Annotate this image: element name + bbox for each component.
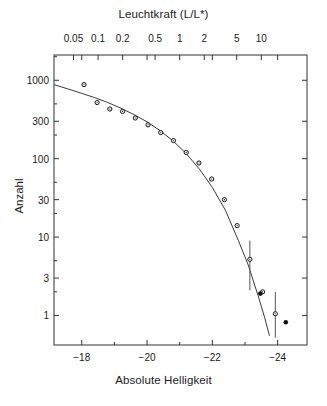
plot-area bbox=[0, 0, 327, 406]
data-points bbox=[82, 83, 288, 325]
axes-frame bbox=[54, 55, 307, 345]
data-point-center bbox=[249, 259, 250, 260]
data-point-center bbox=[147, 124, 148, 125]
data-point-center bbox=[275, 313, 276, 314]
data-point-center bbox=[109, 108, 110, 109]
data-point-center bbox=[122, 111, 123, 112]
error-bars bbox=[250, 241, 275, 338]
data-point-center bbox=[160, 132, 161, 133]
figure-container: Leuchtkraft (L/L*) Absolute Helligkeit A… bbox=[0, 0, 327, 406]
data-point-filled bbox=[258, 291, 263, 296]
data-point-center bbox=[83, 84, 84, 85]
data-point-center bbox=[173, 140, 174, 141]
data-point-center bbox=[237, 225, 238, 226]
data-point-center bbox=[224, 199, 225, 200]
data-point-center bbox=[135, 117, 136, 118]
data-point-filled bbox=[283, 320, 288, 325]
data-point-center bbox=[96, 102, 97, 103]
plot-frame bbox=[54, 55, 307, 345]
schechter-curve bbox=[54, 85, 269, 336]
fit-curve bbox=[54, 85, 269, 336]
data-point-center bbox=[211, 178, 212, 179]
data-point-center bbox=[198, 162, 199, 163]
axis-ticks bbox=[54, 55, 307, 345]
data-point-center bbox=[186, 152, 187, 153]
